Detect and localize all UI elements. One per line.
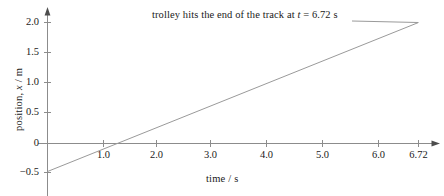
annotation-prefix: trolley hits the end of the track at bbox=[152, 9, 297, 20]
y-axis bbox=[45, 7, 51, 196]
xtick-label-4-0: 4.0 bbox=[252, 150, 281, 161]
ytick-label-1-5: 1.5 bbox=[14, 47, 39, 58]
xtick-label-2-0: 2.0 bbox=[142, 150, 171, 161]
xtick-label-6-0: 6.0 bbox=[364, 150, 393, 161]
ytick-label-neg-0-5: −0.5 bbox=[8, 167, 39, 178]
annotation-trolley-end-of-track: trolley hits the end of the track at t =… bbox=[152, 9, 338, 20]
x-axis-title: time / s bbox=[206, 173, 239, 184]
ytick-label-0: 0 bbox=[14, 138, 39, 149]
chart-figure: 2.0 1.5 1.0 0.5 0 −0.5 1.0 2.0 3.0 4.0 5… bbox=[0, 0, 444, 196]
x-axis bbox=[38, 141, 440, 147]
y-axis-title: position, x / m bbox=[13, 68, 24, 131]
annotation-suffix: = 6.72 s bbox=[300, 9, 337, 20]
xtick-label-1-0: 1.0 bbox=[89, 150, 118, 161]
xtick-label-6-72: 6.72 bbox=[401, 150, 436, 161]
annotation-leader-line bbox=[352, 21, 418, 23]
xtick-label-5-0: 5.0 bbox=[308, 150, 337, 161]
y-axis-symbol: x bbox=[13, 85, 24, 90]
ytick-label-2-0: 2.0 bbox=[14, 17, 39, 28]
xtick-label-3-0: 3.0 bbox=[196, 150, 225, 161]
plot-area bbox=[0, 0, 444, 196]
